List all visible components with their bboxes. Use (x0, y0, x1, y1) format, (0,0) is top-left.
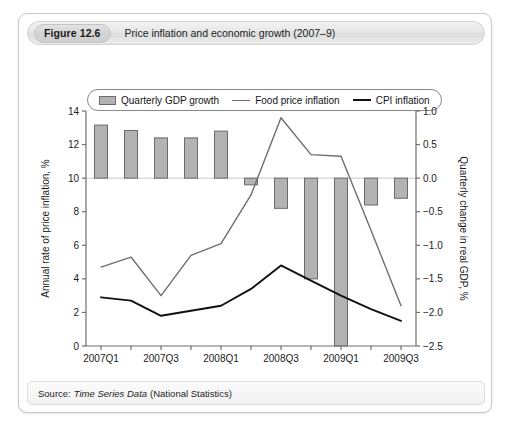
gdp-bar (185, 138, 198, 178)
x-axis-tick-label: 2009Q3 (383, 353, 419, 364)
right-axis-tick-label: −0.5 (423, 206, 443, 217)
gdp-bar (125, 130, 138, 178)
food-price-inflation-line (101, 118, 401, 306)
right-axis-tick-label: 0.0 (423, 173, 437, 184)
right-axis-tick-label: 1.0 (423, 106, 437, 117)
x-axis-tick-label: 2008Q3 (263, 353, 299, 364)
gdp-bar (155, 138, 168, 178)
right-axis-tick-label: −2.0 (423, 307, 443, 318)
gdp-bar (335, 178, 348, 346)
screenshot-root: Figure 12.6 Price inflation and economic… (0, 0, 510, 427)
left-axis-tick-label: 8 (73, 206, 79, 217)
gdp-bar (275, 178, 288, 208)
left-axis-tick-label: 14 (68, 106, 80, 117)
cpi-inflation-line (101, 265, 401, 320)
right-axis-tick-label: −1.0 (423, 240, 443, 251)
right-axis-tick-label: −1.5 (423, 273, 443, 284)
gdp-bar (365, 178, 378, 205)
left-axis-tick-label: 10 (68, 173, 80, 184)
left-axis-tick-label: 4 (73, 273, 79, 284)
x-axis-tick-label: 2007Q1 (83, 353, 119, 364)
plot-area: 02468101214−2.5−2.0−1.5−1.0−0.50.00.51.0… (19, 14, 493, 414)
gdp-bar (95, 125, 108, 178)
left-axis-tick-label: 0 (73, 341, 79, 352)
left-axis-title: Annual rate of price inflation, % (40, 159, 51, 298)
chart-svg: 02468101214−2.5−2.0−1.5−1.0−0.50.00.51.0… (19, 14, 493, 414)
figure-card: Figure 12.6 Price inflation and economic… (18, 13, 492, 413)
right-axis-tick-label: −2.5 (423, 341, 443, 352)
gdp-bar (305, 178, 318, 279)
gdp-bar (215, 131, 228, 178)
x-axis-tick-label: 2008Q1 (203, 353, 239, 364)
left-axis-tick-label: 2 (73, 307, 79, 318)
right-axis-title: Quarterly change in real GDP, % (458, 156, 469, 300)
figure-source: Source: Time Series Data (National Stati… (27, 381, 485, 405)
gdp-bar (395, 178, 408, 198)
source-publisher: (National Statistics) (150, 388, 232, 399)
source-title: Time Series Data (74, 388, 147, 399)
x-axis-tick-label: 2007Q3 (143, 353, 179, 364)
left-axis-tick-label: 12 (68, 139, 80, 150)
source-label: Source: (38, 388, 71, 399)
x-axis-tick-label: 2009Q1 (323, 353, 359, 364)
left-axis-tick-label: 6 (73, 240, 79, 251)
right-axis-tick-label: 0.5 (423, 139, 437, 150)
